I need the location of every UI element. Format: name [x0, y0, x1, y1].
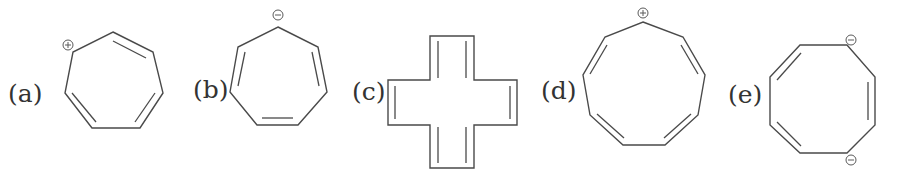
minus-charge-icon [846, 35, 856, 45]
plus-charge-icon [63, 40, 73, 50]
diagram-canvas: (a) (b) (c) (d) [0, 0, 899, 181]
label-a: (a) [8, 79, 42, 108]
double-bond-b2 [312, 52, 319, 86]
ring-c [388, 36, 517, 168]
plus-charge-icon [638, 8, 648, 18]
label-d: (d) [541, 76, 577, 105]
ring-d [583, 22, 705, 145]
minus-charge-icon [846, 155, 856, 165]
minus-charge-icon [273, 10, 283, 20]
label-c: (c) [352, 77, 386, 106]
structure-d: (d) [541, 8, 705, 145]
ring-a [65, 32, 163, 128]
structure-c: (c) [352, 36, 517, 168]
label-b: (b) [193, 75, 229, 104]
structure-e: (e) [728, 35, 875, 165]
ring-b [230, 27, 327, 125]
double-bond-a1 [113, 41, 146, 58]
double-bond-b1 [238, 52, 245, 86]
label-e: (e) [728, 80, 762, 109]
structure-a: (a) [8, 32, 163, 128]
structure-b: (b) [193, 10, 327, 125]
ring-e [770, 45, 875, 153]
double-bond-a2 [135, 93, 155, 122]
